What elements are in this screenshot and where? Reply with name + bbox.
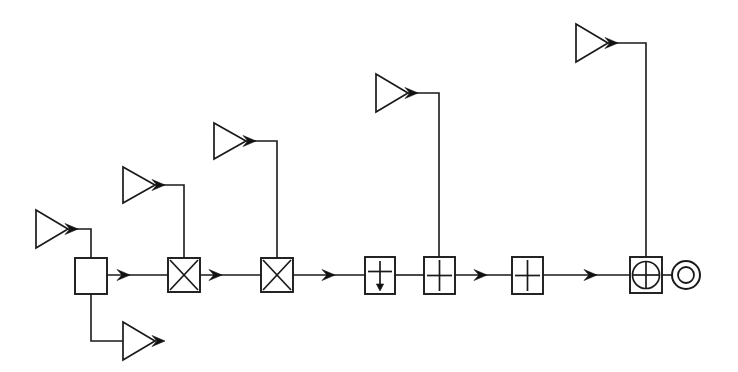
output-terminal[interactable] bbox=[672, 261, 700, 289]
combiner-block-outline bbox=[75, 258, 107, 294]
amplifier-4-triangle bbox=[214, 123, 246, 159]
amplifier-5[interactable] bbox=[376, 74, 408, 112]
block-diagram-canvas bbox=[0, 0, 738, 372]
wire-layer bbox=[68, 43, 672, 341]
mixer-block-2[interactable] bbox=[261, 258, 293, 292]
amplifier-6-triangle bbox=[576, 24, 608, 62]
combiner-block[interactable] bbox=[75, 258, 107, 294]
amplifier-5-output-wire bbox=[408, 93, 439, 257]
amplifier-1-output-wire bbox=[68, 229, 91, 258]
amplifier-6[interactable] bbox=[576, 24, 608, 62]
downsampler-block[interactable] bbox=[365, 257, 395, 294]
amplifier-layer bbox=[36, 24, 608, 360]
block-diagram-svg bbox=[0, 0, 738, 372]
adder-block-2[interactable] bbox=[512, 257, 543, 294]
amplifier-2[interactable] bbox=[123, 322, 155, 360]
amplifier-3[interactable] bbox=[123, 167, 155, 203]
amplifier-1-triangle bbox=[36, 210, 68, 248]
amplifier-2-triangle bbox=[123, 322, 155, 360]
mixer-block-1[interactable] bbox=[168, 258, 200, 292]
amplifier-4[interactable] bbox=[214, 123, 246, 159]
amplifier-6-output-wire bbox=[608, 43, 646, 257]
terminal-layer bbox=[672, 261, 700, 289]
amplifier-3-triangle bbox=[123, 167, 155, 203]
amplifier-5-triangle bbox=[376, 74, 408, 112]
amplifier-4-output-wire bbox=[246, 141, 277, 258]
amplifier-3-output-wire bbox=[155, 185, 184, 258]
modulator-block[interactable] bbox=[630, 257, 662, 293]
amplifier-1[interactable] bbox=[36, 210, 68, 248]
adder-block-1[interactable] bbox=[424, 257, 455, 294]
output-terminal-inner-ring bbox=[678, 267, 694, 283]
arrowhead-layer bbox=[65, 38, 618, 347]
